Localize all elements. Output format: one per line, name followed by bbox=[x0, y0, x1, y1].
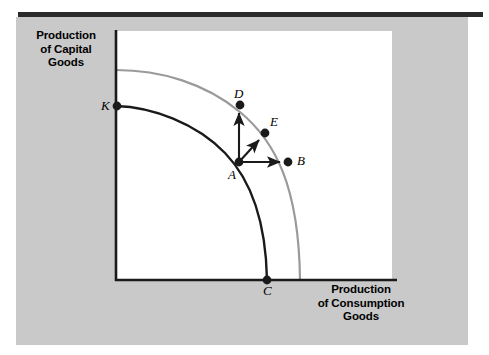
x-axis-title-line2: of Consumption bbox=[306, 297, 416, 311]
shifted-ppf-curve bbox=[116, 70, 300, 280]
point-label-a: A bbox=[228, 168, 236, 181]
current-ppf-curve bbox=[116, 106, 267, 280]
y-axis-title-line3: Goods bbox=[20, 56, 112, 70]
x-axis-title: Production of Consumption Goods bbox=[306, 283, 416, 324]
point-b bbox=[284, 158, 293, 167]
point-label-b: B bbox=[297, 154, 305, 167]
point-label-d: D bbox=[234, 87, 243, 100]
point-label-e: E bbox=[270, 115, 278, 128]
x-axis-title-line3: Goods bbox=[306, 310, 416, 324]
y-axis-title-line1: Production bbox=[20, 29, 112, 43]
point-e bbox=[261, 129, 270, 138]
y-axis-title-line2: of Capital bbox=[20, 43, 112, 57]
point-label-c: C bbox=[263, 284, 272, 297]
y-axis-title: Production of Capital Goods bbox=[20, 29, 112, 70]
point-label-k: K bbox=[101, 99, 110, 112]
point-k bbox=[113, 102, 122, 111]
point-a bbox=[235, 158, 244, 167]
point-d bbox=[236, 101, 245, 110]
arrow-a-to-e bbox=[239, 140, 259, 162]
x-axis-title-line1: Production bbox=[306, 283, 416, 297]
figure-root: Production of Capital Goods Production o… bbox=[0, 0, 489, 355]
